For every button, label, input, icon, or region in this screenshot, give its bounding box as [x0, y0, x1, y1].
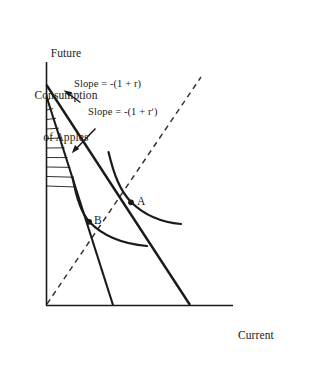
point-marker-a	[128, 199, 134, 205]
point-label-b: B	[94, 213, 102, 227]
y-axis-title-line-1: Future	[18, 46, 114, 60]
x-axis-title-line-1: Current	[238, 328, 329, 342]
x-axis-title: Current Consumption of Apples	[238, 300, 329, 365]
point-label-a: A	[137, 194, 145, 208]
indifference-curve-high	[109, 152, 182, 224]
slope-label-r-prime: Slope = -(1 + rʹ)	[88, 106, 158, 119]
point-marker-b	[86, 219, 92, 225]
slope-label-r: Slope = -(1 + r)	[74, 78, 141, 91]
y-axis-title: Future Consumption of Apples	[18, 18, 114, 172]
y-axis-title-line-3: of Apples	[18, 130, 114, 144]
figure-container: Future Consumption of Apples Current Con…	[0, 0, 329, 365]
